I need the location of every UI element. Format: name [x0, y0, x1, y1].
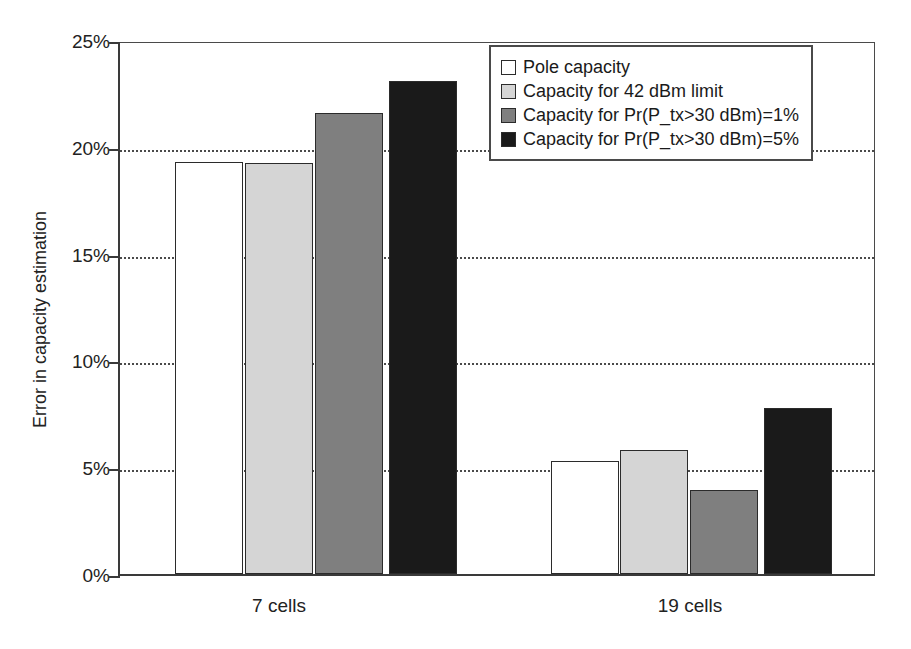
y-axis-tick-label: 10% [38, 352, 110, 371]
legend-item-label: Pole capacity [523, 58, 630, 76]
legend-swatch-icon [501, 108, 516, 123]
bar [315, 113, 383, 574]
y-axis-tick-10% [108, 362, 120, 364]
y-axis-tick-label: 20% [38, 139, 110, 158]
legend-swatch-icon [501, 132, 516, 147]
y-axis-tick-20% [108, 149, 120, 151]
y-axis-tick-label: 25% [38, 32, 110, 51]
legend-item-label: Capacity for Pr(P_tx>30 dBm)=1% [523, 106, 799, 124]
legend-item-label: Capacity for Pr(P_tx>30 dBm)=5% [523, 130, 799, 148]
x-axis-label-group-2: 19 cells [610, 596, 770, 615]
y-axis-tick-label: 5% [38, 459, 110, 478]
bar [764, 408, 832, 574]
bar [690, 490, 758, 574]
y-axis-tick-0% [108, 576, 120, 578]
y-axis-tick-25% [108, 42, 120, 44]
legend-item-4[interactable]: Capacity for Pr(P_tx>30 dBm)=5% [501, 127, 799, 151]
bar [175, 162, 243, 574]
legend-item-3[interactable]: Capacity for Pr(P_tx>30 dBm)=1% [501, 103, 799, 127]
legend: Pole capacityCapacity for 42 dBm limitCa… [489, 45, 813, 161]
y-axis-tick-15% [108, 256, 120, 258]
legend-item-1[interactable]: Pole capacity [501, 55, 799, 79]
y-axis-tick-group: 0%5%10%15%20%25% [0, 0, 110, 649]
y-axis-tick-label: 0% [38, 566, 110, 585]
legend-item-2[interactable]: Capacity for 42 dBm limit [501, 79, 799, 103]
x-axis-label-group-1: 7 cells [199, 596, 359, 615]
legend-swatch-icon [501, 84, 516, 99]
bar [620, 450, 688, 574]
y-axis-tick-5% [108, 469, 120, 471]
bar [245, 163, 313, 574]
bar-chart-figure: Error in capacity estimation 0%5%10%15%2… [0, 0, 911, 649]
legend-swatch-icon [501, 60, 516, 75]
bar [389, 81, 457, 574]
bar [551, 461, 619, 574]
y-axis-tick-label: 15% [38, 246, 110, 265]
legend-item-label: Capacity for 42 dBm limit [523, 82, 723, 100]
